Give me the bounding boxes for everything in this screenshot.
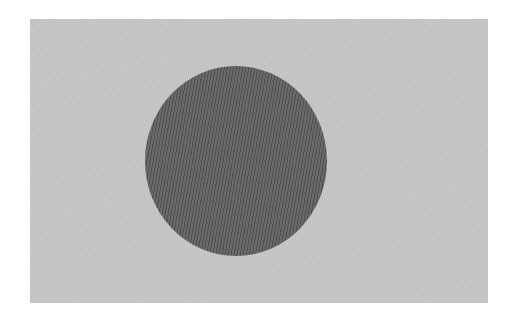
canvas [0, 0, 516, 327]
flag-disc [145, 66, 327, 256]
